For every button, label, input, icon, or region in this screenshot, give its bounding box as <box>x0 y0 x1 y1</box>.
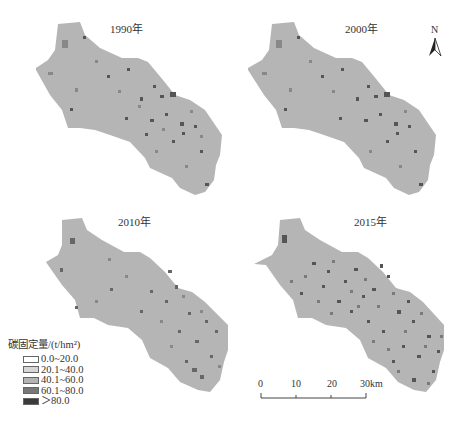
scale-bar: 0 10 20 30km <box>256 378 376 402</box>
map-panel-1990: 1990年 <box>0 0 232 212</box>
legend-label: ＞80.0 <box>41 396 69 406</box>
legend-label: 0.0~20.0 <box>41 354 78 364</box>
legend-item: 40.1~60.0 <box>23 375 128 386</box>
legend-swatch <box>23 356 39 363</box>
panel-title: 2010年 <box>118 213 151 229</box>
legend-swatch <box>23 398 39 405</box>
legend-swatch <box>23 387 39 394</box>
legend-swatch <box>23 366 39 373</box>
panel-title: 2015年 <box>354 213 387 229</box>
legend-label: 60.1~80.0 <box>41 386 83 396</box>
legend-label: 40.1~60.0 <box>41 375 83 385</box>
panel-title: 2000年 <box>345 20 378 36</box>
north-arrow: N <box>427 24 447 60</box>
north-arrow-icon <box>427 24 447 60</box>
legend-item: 60.1~80.0 <box>23 386 128 397</box>
scale-bar-line <box>256 378 376 402</box>
legend-item: ＞80.0 <box>23 396 128 407</box>
legend-item: 0.0~20.0 <box>23 354 128 365</box>
legend-title: 碳固定量/(t/hm²) <box>8 336 128 351</box>
legend-swatch <box>23 377 39 384</box>
panel-title: 1990年 <box>110 20 143 36</box>
legend: 碳固定量/(t/hm²) 0.0~20.0 20.1~40.0 40.1~60.… <box>8 336 128 407</box>
legend-label: 20.1~40.0 <box>41 365 83 375</box>
